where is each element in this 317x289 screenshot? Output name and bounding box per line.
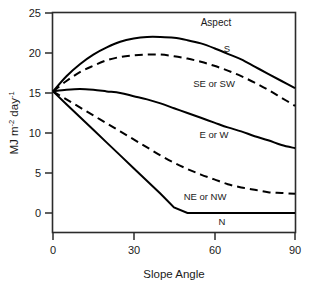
x-axis-title: Slope Angle xyxy=(143,268,204,280)
x-axis-ticks xyxy=(53,233,295,241)
y-tick-labels: 25 20 15 10 5 0 xyxy=(29,7,41,219)
y-axis-title: MJ m-2 day-1 xyxy=(7,91,20,154)
curve-ne-or-nw xyxy=(53,91,295,193)
curve-label-n: N xyxy=(219,216,226,227)
curve-annotations: Aspect S SE or SW E or W NE or NW N xyxy=(184,17,235,227)
curve-label-e-or-w: E or W xyxy=(199,129,228,140)
y-tick-label: 25 xyxy=(29,7,41,19)
curve-se-or-sw xyxy=(53,54,295,105)
y-tick-label: 5 xyxy=(35,167,41,179)
y-axis-title-sup1: -2 xyxy=(7,120,16,127)
x-tick-label: 90 xyxy=(289,244,301,256)
curve-e-or-w xyxy=(53,89,295,148)
y-tick-label: 15 xyxy=(29,87,41,99)
y-axis-ticks xyxy=(45,13,53,213)
y-tick-label: 0 xyxy=(35,207,41,219)
data-curves xyxy=(53,37,295,213)
chart-svg: 25 20 15 10 5 0 0 30 60 90 Slope Angle M… xyxy=(0,0,317,289)
y-axis-title-sup2: -1 xyxy=(7,91,16,98)
svg-text:MJ m-2 day-1: MJ m-2 day-1 xyxy=(7,91,20,154)
curve-s xyxy=(53,37,295,92)
y-tick-label: 20 xyxy=(29,47,41,59)
x-tick-labels: 0 30 60 90 xyxy=(50,244,301,256)
x-tick-label: 0 xyxy=(50,244,56,256)
y-tick-label: 10 xyxy=(29,127,41,139)
curve-label-se-or-sw: SE or SW xyxy=(193,78,235,89)
curve-label-ne-or-nw: NE or NW xyxy=(184,191,227,202)
plot-frame xyxy=(53,13,296,233)
curve-label-s: S xyxy=(224,43,230,54)
legend-title: Aspect xyxy=(201,17,232,28)
y-axis-title-base2: day xyxy=(8,98,20,120)
x-tick-label: 30 xyxy=(128,244,140,256)
x-tick-label: 60 xyxy=(209,244,221,256)
curve-n xyxy=(53,91,295,213)
chart-figure: 25 20 15 10 5 0 0 30 60 90 Slope Angle M… xyxy=(0,0,317,289)
y-axis-title-base1: MJ m xyxy=(8,126,20,154)
